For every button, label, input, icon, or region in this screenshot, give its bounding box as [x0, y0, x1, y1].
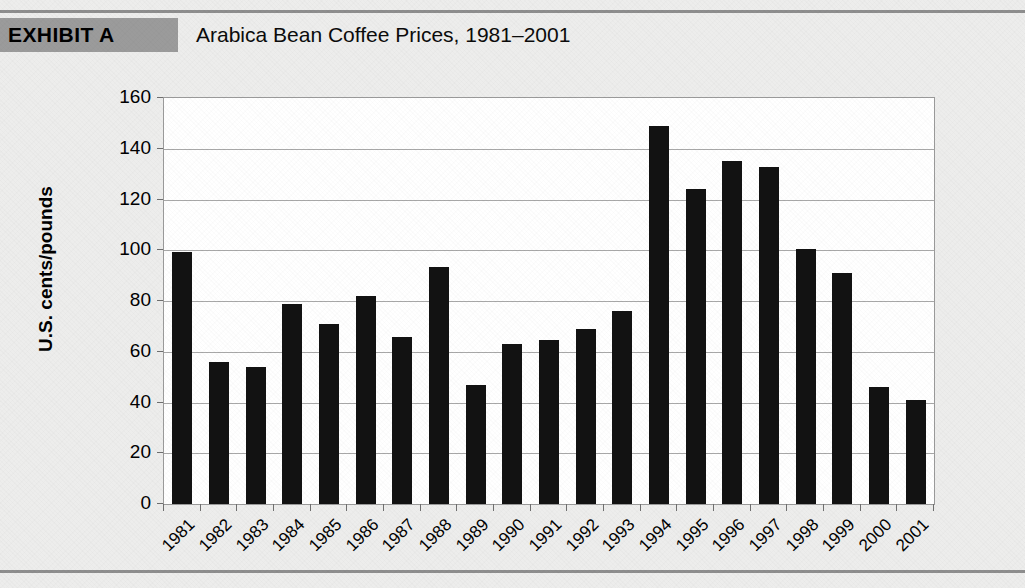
y-axis-tick-mark [157, 452, 163, 453]
bar-1990 [502, 344, 522, 504]
bar-1994 [649, 126, 669, 504]
y-axis-tick-mark [157, 249, 163, 250]
x-axis-tick-mark [676, 504, 677, 511]
bar-chart: U.S. cents/pounds 0204060801001201401601… [0, 60, 1025, 560]
exhibit-tag: EXHIBIT A [0, 18, 178, 52]
bar-1988 [429, 267, 449, 504]
y-axis-tick-mark [157, 300, 163, 301]
x-axis-tick-mark [640, 504, 641, 511]
bar-1992 [576, 329, 596, 504]
exhibit-title: Arabica Bean Coffee Prices, 1981–2001 [196, 18, 570, 52]
bar-1986 [356, 296, 376, 504]
gridline [164, 149, 934, 150]
bar-1989 [466, 385, 486, 504]
x-axis-tick-mark [273, 504, 274, 511]
y-axis-tick-label: 160 [91, 86, 151, 108]
exhibit-tag-label: EXHIBIT A [0, 23, 115, 47]
x-axis-tick-mark [456, 504, 457, 511]
y-axis-tick-label: 20 [91, 441, 151, 463]
x-axis-tick-mark [420, 504, 421, 511]
bar-1987 [392, 337, 412, 504]
x-axis-tick-mark [163, 504, 164, 511]
x-axis-tick-mark [786, 504, 787, 511]
x-axis-tick-mark [383, 504, 384, 511]
y-axis-tick-mark [157, 148, 163, 149]
bar-1991 [539, 340, 559, 504]
x-axis-tick-mark [896, 504, 897, 511]
bar-1995 [686, 189, 706, 504]
x-axis-tick-mark [236, 504, 237, 511]
bar-2001 [906, 400, 926, 504]
bottom-divider-rule [0, 570, 1025, 573]
gridline [164, 301, 934, 302]
x-axis-tick-mark [713, 504, 714, 511]
bar-1984 [282, 304, 302, 504]
bar-1996 [722, 161, 742, 504]
bar-1998 [796, 249, 816, 504]
plot-area [163, 97, 935, 505]
x-axis-tick-mark [603, 504, 604, 511]
bar-1993 [612, 311, 632, 504]
bar-1982 [209, 362, 229, 504]
bar-1985 [319, 324, 339, 504]
gridline [164, 250, 934, 251]
y-axis-tick-label: 60 [91, 340, 151, 362]
x-axis-tick-mark [310, 504, 311, 511]
y-axis-tick-mark [157, 351, 163, 352]
x-axis-tick-mark [493, 504, 494, 511]
x-axis-tick-mark [530, 504, 531, 511]
bar-1999 [832, 273, 852, 504]
exhibit-page: EXHIBIT A Arabica Bean Coffee Prices, 19… [0, 0, 1025, 588]
y-axis-tick-label: 0 [91, 492, 151, 514]
x-axis-tick-mark [823, 504, 824, 511]
bar-1983 [246, 367, 266, 504]
top-divider-rule [0, 10, 1025, 13]
bar-1981 [172, 252, 192, 504]
bar-1997 [759, 167, 779, 504]
y-axis-title: U.S. cents/pounds [35, 149, 57, 389]
y-axis-tick-mark [157, 402, 163, 403]
y-axis-tick-label: 80 [91, 289, 151, 311]
x-axis-tick-mark [200, 504, 201, 511]
x-axis-tick-mark [346, 504, 347, 511]
x-axis-tick-mark [860, 504, 861, 511]
y-axis-tick-label: 140 [91, 137, 151, 159]
bar-2000 [869, 387, 889, 504]
x-axis-tick-mark [933, 504, 934, 511]
x-axis-tick-mark [566, 504, 567, 511]
y-axis-tick-mark [157, 97, 163, 98]
y-axis-tick-label: 100 [91, 238, 151, 260]
y-axis-tick-label: 40 [91, 391, 151, 413]
gridline [164, 200, 934, 201]
y-axis-tick-mark [157, 199, 163, 200]
y-axis-tick-label: 120 [91, 188, 151, 210]
x-axis-tick-mark [750, 504, 751, 511]
